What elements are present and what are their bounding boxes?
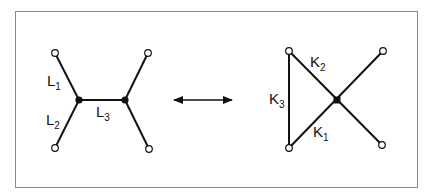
edge-right-bottom bbox=[125, 100, 149, 149]
label-L3: L3 bbox=[96, 103, 110, 123]
right-graph-labels: K2 K3 K1 bbox=[269, 53, 329, 143]
open-node bbox=[286, 48, 293, 55]
label-L1: L1 bbox=[47, 72, 61, 92]
open-node bbox=[380, 48, 387, 55]
edge-right-top bbox=[125, 53, 148, 100]
open-node bbox=[52, 145, 59, 152]
open-node bbox=[52, 50, 59, 57]
filled-node bbox=[75, 96, 82, 103]
filled-node bbox=[334, 97, 341, 104]
label-K3: K3 bbox=[269, 90, 285, 110]
label-K1: K1 bbox=[313, 123, 329, 143]
open-node bbox=[286, 145, 293, 152]
edge-L1 bbox=[55, 53, 79, 100]
diagram-canvas: L1 L2 L3 K2 K3 K1 bbox=[0, 0, 434, 195]
open-node bbox=[145, 50, 152, 57]
filled-node bbox=[121, 96, 128, 103]
open-node bbox=[379, 142, 386, 149]
label-L2: L2 bbox=[46, 111, 60, 131]
left-graph bbox=[55, 53, 149, 149]
open-node bbox=[146, 146, 153, 153]
label-K2: K2 bbox=[310, 53, 326, 73]
